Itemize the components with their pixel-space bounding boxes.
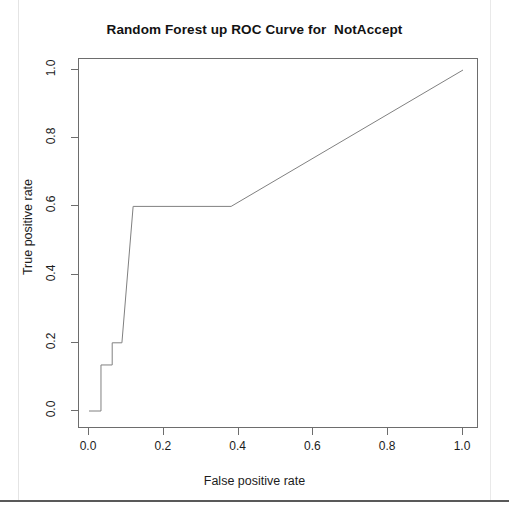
y-tick-0.2 (71, 342, 78, 343)
x-tick-label-0.0: 0.0 (58, 439, 118, 453)
x-tick-label-0.6: 0.6 (282, 439, 342, 453)
y-tick-0.4 (71, 274, 78, 275)
x-axis-title: False positive rate (0, 474, 509, 488)
page-edge-right (490, 0, 491, 500)
y-tick-label-0.2: 0.2 (44, 326, 58, 356)
page-edge-left (18, 0, 19, 500)
chart-title: Random Forest up ROC Curve for NotAccept (0, 22, 509, 37)
x-tick-0.4 (238, 428, 239, 435)
x-tick-0.8 (387, 428, 388, 435)
y-tick-label-1.0: 1.0 (44, 53, 58, 83)
x-tick-0.6 (312, 428, 313, 435)
y-tick-label-0.6: 0.6 (44, 189, 58, 219)
y-tick-0.0 (71, 410, 78, 411)
x-tick-0.2 (163, 428, 164, 435)
chart-page: Random Forest up ROC Curve for NotAccept… (0, 0, 509, 514)
x-tick-label-0.8: 0.8 (357, 439, 417, 453)
x-tick-label-0.2: 0.2 (133, 439, 193, 453)
x-tick-label-0.4: 0.4 (208, 439, 268, 453)
y-tick-0.8 (71, 137, 78, 138)
x-tick-label-1.0: 1.0 (432, 439, 492, 453)
x-tick-0.0 (88, 428, 89, 435)
plot-area (78, 58, 478, 428)
y-tick-1.0 (71, 69, 78, 70)
roc-curve-svg (79, 59, 479, 429)
y-axis-title: True positive rate (21, 137, 35, 317)
roc-curve-line (89, 70, 463, 411)
page-bottom-rule (0, 500, 509, 502)
y-tick-0.6 (71, 205, 78, 206)
y-tick-label-0.0: 0.0 (44, 394, 58, 424)
y-tick-label-0.4: 0.4 (44, 258, 58, 288)
x-tick-1.0 (462, 428, 463, 435)
y-tick-label-0.8: 0.8 (44, 121, 58, 151)
